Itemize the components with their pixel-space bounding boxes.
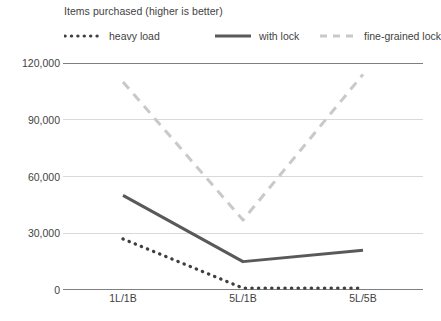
x-axis: 1L/1B5L/1B5L/5B xyxy=(63,292,423,310)
legend-item-heavy-load: heavy load xyxy=(64,28,160,44)
y-axis: 030,00060,00090,000120,000 xyxy=(0,63,60,290)
y-axis-tick-label: 0 xyxy=(2,284,60,296)
chart-title: Items purchased (higher is better) xyxy=(64,5,223,17)
legend-label-fine-grained-lock: fine-grained lock xyxy=(364,30,441,42)
y-axis-tick-label: 120,000 xyxy=(2,57,60,69)
x-axis-tick-label: 5L/5B xyxy=(349,292,376,304)
legend-item-with-lock: with lock xyxy=(214,28,299,44)
y-axis-tick-label: 90,000 xyxy=(2,114,60,126)
y-axis-tick-label: 60,000 xyxy=(2,171,60,183)
legend-swatch-dotted-icon xyxy=(64,30,102,42)
series-line xyxy=(123,239,363,288)
series-line xyxy=(123,195,363,261)
series-line xyxy=(123,74,363,220)
plot-area xyxy=(63,63,423,290)
legend-swatch-solid-icon xyxy=(214,30,252,42)
legend-item-fine-grained-lock: fine-grained lock xyxy=(319,28,441,44)
legend-label-with-lock: with lock xyxy=(259,30,299,42)
x-axis-tick-label: 1L/1B xyxy=(109,292,136,304)
legend-label-heavy-load: heavy load xyxy=(109,30,160,42)
y-axis-tick-label: 30,000 xyxy=(2,227,60,239)
x-axis-tick-label: 5L/1B xyxy=(229,292,256,304)
legend-swatch-dashed-icon xyxy=(319,30,357,42)
chart-legend: heavy load with lock fine-grained lock xyxy=(64,28,424,44)
